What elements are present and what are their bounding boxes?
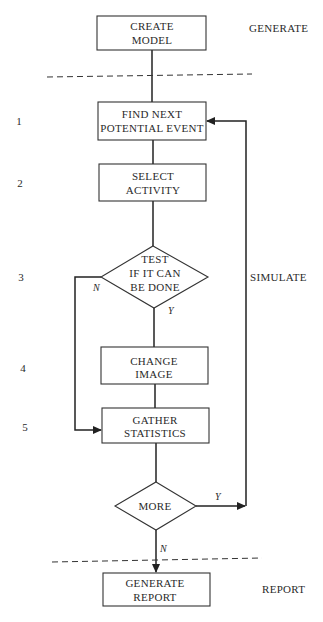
node-text: MORE (139, 500, 172, 512)
node-text: POTENTIAL EVENT (100, 122, 203, 134)
node-text: TEST (141, 253, 168, 265)
node-text: ACTIVITY (126, 184, 180, 196)
connector-loop-back-to-find (207, 121, 246, 506)
step-number-2: 2 (17, 177, 23, 189)
step-number-5: 5 (22, 421, 28, 433)
section-label-report: REPORT (262, 583, 305, 595)
node-text: CHANGE (130, 355, 178, 367)
step-number-3: 3 (18, 271, 24, 283)
node-text: CREATE (130, 20, 173, 32)
node-generate-report: GENERATE REPORT (103, 573, 210, 606)
step-number-4: 4 (20, 362, 26, 374)
node-change-image: CHANGE IMAGE (101, 347, 208, 384)
node-select-activity: SELECT ACTIVITY (99, 164, 206, 201)
step-number-1: 1 (16, 115, 22, 127)
section-label-generate: GENERATE (249, 22, 308, 34)
node-text: IF IT CAN (129, 267, 180, 279)
node-text: REPORT (133, 591, 176, 603)
branch-label-more-yes: Y (215, 491, 222, 502)
node-find-next-event: FIND NEXT POTENTIAL EVENT (98, 102, 206, 140)
node-text: FIND NEXT (122, 108, 182, 120)
branch-label-more-no: N (159, 543, 168, 554)
separator-simulate-report (52, 558, 262, 562)
node-text: SELECT (132, 170, 174, 182)
node-text: IMAGE (135, 368, 173, 380)
separator-generate-simulate (47, 74, 252, 77)
node-text: MODEL (132, 34, 173, 46)
simulation-flowchart: CREATE MODEL FIND NEXT POTENTIAL EVENT S… (0, 0, 323, 622)
node-text: GATHER (132, 414, 178, 426)
node-create-model: CREATE MODEL (97, 16, 206, 50)
node-more-decision: MORE (115, 482, 196, 530)
node-text: BE DONE (130, 281, 179, 293)
branch-label-test-yes: Y (168, 305, 175, 316)
node-gather-statistics: GATHER STATISTICS (102, 408, 209, 443)
branch-label-test-no: N (92, 282, 101, 293)
connector-test-no-to-gather (75, 277, 101, 430)
section-label-simulate: SIMULATE (250, 271, 307, 283)
node-test-decision: TEST IF IT CAN BE DONE (101, 246, 208, 308)
node-text: STATISTICS (124, 427, 186, 439)
node-text: GENERATE (125, 577, 184, 589)
